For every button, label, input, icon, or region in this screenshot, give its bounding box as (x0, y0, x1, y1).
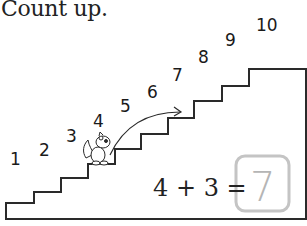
equation-text: 4 + 3 = (153, 174, 247, 202)
number-7: 7 (172, 65, 183, 85)
number-8: 8 (198, 47, 209, 67)
answer-value: 7 (250, 164, 275, 210)
number-10: 10 (256, 15, 278, 35)
number-1: 1 (10, 149, 21, 169)
number-2: 2 (39, 140, 50, 160)
staircase-figure: 1 2 3 4 5 6 7 8 9 10 4 + 3 = 7 (0, 0, 307, 226)
number-3: 3 (66, 126, 77, 146)
number-5: 5 (120, 96, 131, 116)
squirrel-icon (84, 132, 110, 165)
number-4: 4 (93, 111, 104, 131)
number-9: 9 (225, 30, 236, 50)
number-6: 6 (147, 82, 158, 102)
